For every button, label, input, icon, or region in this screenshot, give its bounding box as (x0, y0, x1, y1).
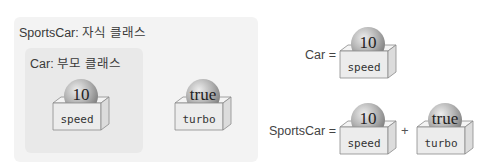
field-item-speed: 10 speed (50, 76, 112, 134)
field-name-label: turbo (175, 113, 223, 126)
field-name-label: speed (53, 113, 101, 126)
car-panel-title: Car: 부모 클래스 (30, 53, 121, 72)
value-label: true (172, 85, 234, 105)
sportscar-panel-title: SportsCar: 자식 클래스 (19, 22, 146, 41)
field-item-turbo: true turbo (172, 76, 234, 134)
sportscar-equation-label: SportsCar = (268, 124, 336, 138)
car-equation-item-speed: 10 speed (337, 24, 399, 82)
car-equation-label: Car = (300, 48, 336, 62)
value-label: 10 (50, 85, 112, 105)
field-name-label: speed (340, 61, 388, 74)
field-name-label: turbo (417, 137, 465, 150)
value-label: true (414, 109, 476, 129)
value-label: 10 (337, 33, 399, 53)
sportscar-equation-item-turbo: true turbo (414, 100, 476, 158)
value-label: 10 (337, 109, 399, 129)
field-name-label: speed (340, 137, 388, 150)
sportscar-equation-item-speed: 10 speed (337, 100, 399, 158)
plus-operator: + (401, 123, 409, 138)
